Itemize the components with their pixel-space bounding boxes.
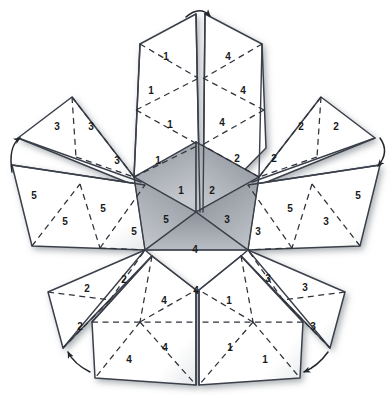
face-label-t39: 4 [126, 354, 132, 365]
arrow-bottom-left [68, 352, 90, 372]
face-label-t35: 2 [77, 321, 83, 332]
face-label-t29: 3 [265, 273, 271, 284]
face-label-t37: 4 [162, 342, 168, 353]
face-label-t1: 1 [163, 51, 169, 62]
arrow-right [378, 138, 385, 166]
face-label-t27: 4 [192, 244, 198, 255]
face-label-t28: 2 [121, 274, 127, 285]
face-label-t7: 1 [167, 119, 173, 130]
face-label-t36: 3 [310, 321, 316, 332]
face-label-t24: 3 [323, 216, 329, 227]
face-label-t26: 3 [255, 226, 261, 237]
net-diagram-canvas: 1414331422312212555555335342323441234141 [0, 0, 392, 399]
face-label-t13: 2 [234, 153, 240, 164]
face-label-t17: 5 [31, 190, 37, 201]
face-label-t11: 3 [114, 155, 120, 166]
face-label-t8: 4 [219, 117, 225, 128]
face-label-t22: 5 [163, 214, 169, 225]
face-label-t16: 2 [209, 185, 215, 196]
face-label-t3: 1 [148, 85, 154, 96]
arrow-bottom-right [304, 352, 328, 372]
face-label-t31: 3 [302, 282, 308, 293]
face-label-t30: 2 [84, 283, 90, 294]
face-label-t38: 1 [227, 342, 233, 353]
face-label-t23: 3 [224, 214, 230, 225]
face-label-t18: 5 [100, 203, 106, 214]
face-label-t6: 3 [88, 121, 94, 132]
face-label-t21: 5 [62, 216, 68, 227]
face-label-t32: 4 [193, 285, 199, 296]
face-label-t14: 2 [271, 153, 277, 164]
face-label-t12: 1 [155, 155, 161, 166]
face-label-t2: 4 [225, 51, 231, 62]
face-label-t19: 5 [287, 203, 293, 214]
face-label-t10: 2 [333, 121, 339, 132]
face-label-t9: 2 [298, 121, 304, 132]
face-label-t34: 1 [226, 295, 232, 306]
face-label-t20: 5 [355, 190, 361, 201]
face-label-t33: 4 [161, 295, 167, 306]
face-label-t25: 5 [131, 226, 137, 237]
face-label-t40: 1 [262, 354, 268, 365]
polyhedron-net-figure: 1414331422312212555555335342323441234141 [0, 0, 392, 399]
face-label-t5: 3 [54, 121, 60, 132]
face-label-t15: 1 [178, 185, 184, 196]
face-label-t4: 4 [240, 85, 246, 96]
